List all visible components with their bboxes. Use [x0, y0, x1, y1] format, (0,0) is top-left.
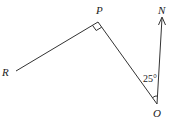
line-rp [16, 22, 98, 71]
bearing-diagram: P R O N 25° [0, 0, 175, 126]
label-o: O [153, 107, 161, 119]
label-r: R [1, 66, 9, 78]
line-po [98, 22, 157, 104]
angle-label: 25° [143, 73, 157, 84]
label-p: P [95, 4, 103, 16]
angle-arc [153, 96, 158, 98]
label-n: N [157, 4, 166, 16]
line-on [157, 18, 162, 104]
